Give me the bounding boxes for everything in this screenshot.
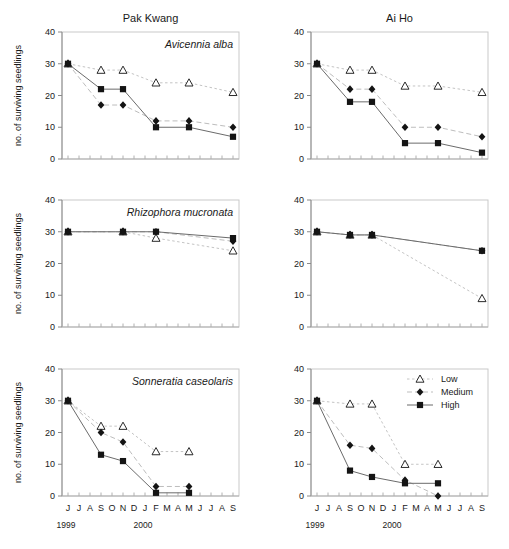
species-label: Sonneratia caseolaris <box>132 375 234 387</box>
y-axis-tick-label: 20 <box>45 91 55 101</box>
marker-high <box>230 134 236 140</box>
y-axis-tick-label: 0 <box>299 322 304 332</box>
series-line-high <box>317 64 482 153</box>
y-axis-tick-label: 0 <box>50 154 55 164</box>
y-axis-tick-label: 30 <box>45 396 55 406</box>
x-axis-year-label: 2000 <box>383 520 402 530</box>
series-line-high <box>68 64 233 137</box>
x-axis-month-label: J <box>315 503 320 513</box>
marker-low <box>152 79 160 86</box>
series-line-medium <box>68 64 233 128</box>
marker-low <box>152 448 160 455</box>
marker-medium <box>186 483 193 491</box>
marker-high <box>186 124 192 130</box>
series-line-medium <box>317 401 438 496</box>
marker-medium <box>153 117 160 125</box>
marker-high <box>369 232 375 238</box>
y-axis-tick-label: 40 <box>294 364 304 374</box>
x-axis-month-label: J <box>66 503 71 513</box>
marker-high <box>98 86 104 92</box>
marker-high <box>120 86 126 92</box>
panel-middle-left: 010203040Rhizophora mucronata <box>45 195 239 332</box>
x-axis-month-label: J <box>447 503 452 513</box>
x-axis-month-label: J <box>143 503 148 513</box>
panel-frame <box>62 200 239 327</box>
panel-top-right: 010203040 <box>294 27 488 164</box>
series-line-medium <box>68 401 189 487</box>
series-line-low <box>317 232 482 299</box>
x-axis-month-label: A <box>87 503 93 513</box>
marker-high <box>347 232 353 238</box>
panel-middle-right: 010203040 <box>294 195 488 332</box>
marker-high <box>435 480 441 486</box>
marker-low <box>434 460 442 467</box>
legend: LowMediumHigh <box>407 374 473 410</box>
marker-low <box>478 294 486 301</box>
legend-label-medium: Medium <box>441 387 473 397</box>
marker-high <box>314 61 320 67</box>
series-line-high <box>68 401 189 493</box>
y-axis-tick-label: 30 <box>294 59 304 69</box>
marker-high <box>120 458 126 464</box>
y-axis-tick-label: 40 <box>45 27 55 37</box>
x-axis-month-label: M <box>163 503 171 513</box>
x-axis-year-label: 1999 <box>306 520 325 530</box>
marker-high <box>369 99 375 105</box>
series-line-high <box>317 232 482 251</box>
y-axis-tick-label: 20 <box>294 91 304 101</box>
x-axis-month-label: J <box>209 503 214 513</box>
multi-panel-line-chart: Pak KwangAi Hono. of surviving seedlings… <box>0 0 509 549</box>
x-axis-month-label: O <box>108 503 115 513</box>
x-axis-month-label: O <box>357 503 364 513</box>
marker-high <box>369 474 375 480</box>
x-axis-month-label: J <box>458 503 463 513</box>
y-axis-tick-label: 10 <box>294 122 304 132</box>
marker-high <box>65 61 71 67</box>
marker-high <box>402 480 408 486</box>
marker-medium <box>347 85 354 93</box>
column-title-pak_kwang: Pak Kwang <box>123 12 179 24</box>
x-axis-month-label: F <box>402 503 408 513</box>
x-axis-month-label: D <box>380 503 387 513</box>
marker-high <box>153 490 159 496</box>
y-axis-tick-label: 30 <box>45 227 55 237</box>
x-axis-month-label: A <box>468 503 474 513</box>
y-axis-tick-label: 30 <box>294 227 304 237</box>
series-line-low <box>68 64 233 93</box>
y-axis-tick-label: 20 <box>294 259 304 269</box>
y-axis-title-row-0: no. of surviving seedlings <box>13 44 23 146</box>
x-axis-year-label: 1999 <box>57 520 76 530</box>
x-axis-month-label: N <box>369 503 376 513</box>
marker-medium <box>230 123 237 131</box>
series-line-low <box>317 401 438 465</box>
y-axis-tick-label: 10 <box>45 459 55 469</box>
panel-frame <box>62 32 239 159</box>
x-axis-month-label: A <box>336 503 342 513</box>
marker-medium <box>417 388 424 396</box>
column-title-ai_ho: Ai Ho <box>386 12 413 24</box>
marker-medium <box>435 123 442 131</box>
y-axis-tick-label: 40 <box>45 364 55 374</box>
y-axis-tick-label: 0 <box>50 491 55 501</box>
marker-high <box>435 140 441 146</box>
panel-top-left: 010203040Avicennia alba <box>45 27 239 164</box>
y-axis-tick-label: 20 <box>45 259 55 269</box>
y-axis-title-row-2: no. of surviving seedlings <box>13 381 23 483</box>
x-axis-month-label: J <box>77 503 82 513</box>
marker-high <box>120 229 126 235</box>
y-axis-tick-label: 30 <box>45 59 55 69</box>
y-axis-tick-label: 40 <box>294 195 304 205</box>
x-axis-month-label: J <box>198 503 203 513</box>
marker-medium <box>479 133 486 141</box>
marker-medium <box>186 117 193 125</box>
y-axis-tick-label: 20 <box>45 428 55 438</box>
y-axis-tick-label: 0 <box>299 491 304 501</box>
marker-high <box>314 229 320 235</box>
panel-frame <box>62 369 239 496</box>
marker-high <box>153 229 159 235</box>
marker-medium <box>402 123 409 131</box>
marker-low <box>229 247 237 254</box>
marker-high <box>314 398 320 404</box>
legend-label-low: Low <box>441 374 458 384</box>
marker-high <box>65 398 71 404</box>
